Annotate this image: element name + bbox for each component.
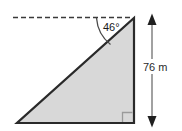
geometry-figure: 46° 76 m <box>0 0 182 131</box>
dimension-label: 76 m <box>143 61 167 73</box>
angle-label: 46° <box>103 21 120 33</box>
